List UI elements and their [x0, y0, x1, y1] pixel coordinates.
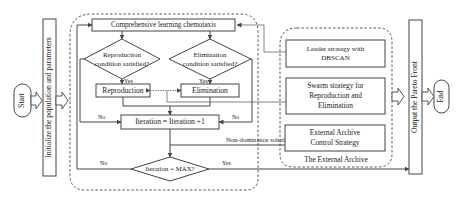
- archive-line1: External Archive: [310, 128, 361, 137]
- leader-line1: Leader strategy with: [307, 45, 365, 53]
- iteration-max-diamond: Iteration = MAX?: [131, 157, 209, 181]
- chemotaxis-label: Comprehensive learning chemotaxis: [111, 21, 216, 29]
- iteration-increment-label: Iteration = Iteration +1: [135, 117, 205, 126]
- leader-strategy-box: Leader strategy with DBSCAN: [286, 40, 385, 67]
- block-arrow-archive-to-output: [392, 88, 404, 105]
- max-yes-label: Yes: [222, 160, 231, 166]
- block-arrow-start-to-init: [31, 92, 42, 109]
- repro-no-label: No: [98, 114, 105, 120]
- init-box: Initialize the population and parameters: [43, 19, 56, 176]
- elim-condition-diamond: Elimination condition satisfied?: [169, 39, 251, 79]
- output-box: Output the Pareto Front: [409, 20, 422, 174]
- line-elim-to-merge: [170, 97, 210, 106]
- init-label: Initialize the population and parameters: [44, 37, 53, 158]
- leader-line2: DBSCAN: [321, 54, 349, 62]
- iteration-max-label: Iteration = MAX?: [145, 165, 194, 172]
- archive-control-box: External Archive Control Strategy: [285, 125, 385, 151]
- repro-cond-line2: condition satisfied?: [95, 60, 150, 68]
- repro-cond-line1: Reproduction: [103, 51, 142, 59]
- iteration-increment-box: Iteration = Iteration +1: [121, 115, 219, 129]
- repro-condition-diamond: Reproduction condition satisfied?: [84, 39, 160, 79]
- start-label: Start: [17, 92, 26, 108]
- reproduction-box: Reproduction: [96, 84, 150, 97]
- swarm-line3: Elimination: [318, 101, 353, 110]
- non-dominance-label: Non-dominance solutions: [226, 136, 294, 143]
- elim-cond-line1: Elimination: [193, 51, 227, 59]
- output-label: Output the Pareto Front: [410, 60, 419, 133]
- block-arrow-output-to-end: [422, 88, 434, 105]
- archive-line2: Control Strategy: [310, 138, 359, 147]
- swarm-line2: Reproduction and: [309, 91, 362, 100]
- elimination-box: Elimination: [181, 84, 239, 97]
- elim-no-label: No: [232, 114, 239, 120]
- end-label: End: [436, 90, 445, 102]
- end-terminal: End: [434, 80, 449, 113]
- repro-yes-label: Yes: [124, 78, 133, 84]
- archive-group-label: The External Archive: [304, 155, 368, 164]
- reproduction-label: Reproduction: [102, 86, 144, 95]
- elim-cond-line2: condition satisfied?: [183, 60, 238, 68]
- line-repro-to-merge: [123, 97, 170, 106]
- flowchart-diagram: Start Initialize the population and para…: [0, 0, 461, 197]
- elimination-label: Elimination: [192, 86, 228, 95]
- max-no-label: No: [100, 160, 107, 166]
- swarm-strategy-box: Swarm strategy for Reproduction and Elim…: [286, 78, 385, 114]
- swarm-line1: Swarm strategy for: [307, 81, 364, 90]
- elim-yes-label: Yes: [199, 78, 208, 84]
- block-arrow-init-to-loop: [56, 92, 68, 109]
- start-terminal: Start: [14, 84, 31, 117]
- chemotaxis-box: Comprehensive learning chemotaxis: [92, 19, 235, 31]
